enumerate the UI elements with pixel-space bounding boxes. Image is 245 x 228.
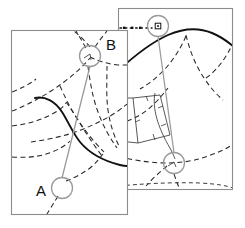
figure-canvas: B A <box>0 0 245 228</box>
left-map-panel[interactable]: B A <box>12 31 128 215</box>
overlapping-map-panels-figure: B A <box>0 0 245 228</box>
right-map-panel[interactable] <box>119 9 234 190</box>
right-panel-border <box>119 9 233 190</box>
node-center-dot <box>157 25 159 27</box>
label-b: B <box>106 36 116 53</box>
label-a: A <box>36 182 46 199</box>
